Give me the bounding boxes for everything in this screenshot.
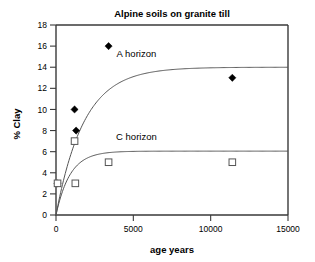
y-tick-label: 6 bbox=[42, 147, 47, 157]
x-tick-label: 10000 bbox=[199, 224, 223, 234]
y-axis-label: % Clay bbox=[11, 108, 22, 140]
y-tick-label: 10 bbox=[38, 105, 48, 115]
x-tick-label: 5000 bbox=[124, 224, 143, 234]
chart-background bbox=[0, 0, 315, 262]
y-tick-label: 18 bbox=[38, 20, 48, 30]
y-tick-label: 2 bbox=[42, 189, 47, 199]
y-tick-label: 14 bbox=[38, 62, 48, 72]
annotation-c-horizon: C horizon bbox=[116, 131, 157, 142]
data-point-c-horizon bbox=[229, 159, 236, 166]
y-tick-label: 0 bbox=[42, 210, 47, 220]
alpine-soils-scatter-chart: Alpine soils on granite till 02468101214… bbox=[0, 0, 315, 262]
chart-figure: Alpine soils on granite till 02468101214… bbox=[0, 0, 315, 262]
data-point-c-horizon bbox=[105, 159, 112, 166]
y-tick-label: 4 bbox=[42, 168, 47, 178]
y-tick-label: 12 bbox=[38, 83, 48, 93]
y-tick-label: 16 bbox=[38, 41, 48, 51]
data-point-c-horizon bbox=[72, 180, 79, 187]
chart-title: Alpine soils on granite till bbox=[114, 8, 230, 19]
x-axis-label: age years bbox=[150, 244, 194, 255]
annotation-a-horizon: A horizon bbox=[117, 48, 157, 59]
x-tick-label: 15000 bbox=[276, 224, 300, 234]
x-tick-label: 0 bbox=[54, 224, 59, 234]
data-point-c-horizon bbox=[54, 180, 61, 187]
y-tick-label: 8 bbox=[42, 126, 47, 136]
data-point-c-horizon bbox=[71, 138, 78, 145]
